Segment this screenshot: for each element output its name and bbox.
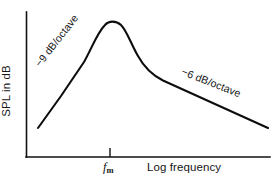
spl-response-curve — [38, 22, 268, 128]
y-axis-label-text: SPL in dB — [1, 65, 13, 117]
x-axis-label: Log frequency — [147, 162, 221, 174]
spl-response-figure: SPL in dB Log frequency fm −9 dB/octave … — [0, 0, 278, 180]
y-axis-label: SPL in dB — [0, 60, 14, 122]
fm-subscript: m — [107, 165, 114, 175]
x-axis-tick-label-fm: fm — [103, 161, 114, 174]
